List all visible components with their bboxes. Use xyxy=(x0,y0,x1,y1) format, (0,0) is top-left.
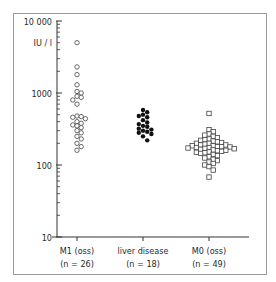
data-point-filled-circle xyxy=(145,130,149,134)
data-point-filled-circle xyxy=(141,134,145,138)
data-point-open-square xyxy=(215,135,219,139)
data-point-open-circle xyxy=(75,83,79,87)
data-point-open-square xyxy=(211,157,215,161)
scatter-plot: 10100100010 000IU / lM1 (oss)(n = 26)liv… xyxy=(0,0,276,282)
data-point-open-square xyxy=(203,142,207,146)
data-point-filled-circle xyxy=(141,124,145,128)
data-point-open-circle xyxy=(75,102,79,106)
data-point-open-square xyxy=(186,146,190,150)
data-point-open-square xyxy=(203,151,207,155)
data-point-open-square xyxy=(207,155,211,159)
data-point-open-circle xyxy=(75,94,79,98)
data-point-open-square xyxy=(207,150,211,154)
data-point-open-circle xyxy=(83,116,87,120)
data-point-open-square xyxy=(190,144,194,148)
y-tick-label: 100 xyxy=(37,161,52,171)
data-point-open-square xyxy=(207,137,211,141)
data-point-open-square xyxy=(211,139,215,143)
data-point-open-circle xyxy=(71,115,75,119)
y-axis-unit-label: IU / l xyxy=(34,38,52,48)
data-point-open-square xyxy=(207,141,211,145)
category-n-label: (n = 49) xyxy=(192,259,226,269)
data-point-filled-circle xyxy=(141,108,145,112)
data-point-open-square xyxy=(215,140,219,144)
category-n-label: (n = 26) xyxy=(60,259,94,269)
data-point-filled-circle xyxy=(137,131,141,135)
data-point-filled-circle xyxy=(137,126,141,130)
data-point-open-circle xyxy=(75,128,79,132)
data-point-filled-circle xyxy=(137,114,141,118)
data-point-open-circle xyxy=(79,125,83,129)
data-point-open-square xyxy=(232,147,236,151)
data-point-open-circle xyxy=(71,98,75,102)
data-point-open-circle xyxy=(79,95,83,99)
data-point-open-square xyxy=(219,144,223,148)
data-point-filled-circle xyxy=(145,138,149,142)
data-point-open-square xyxy=(207,175,211,179)
data-point-open-circle xyxy=(79,121,83,125)
data-point-filled-circle xyxy=(145,125,149,129)
data-point-open-square xyxy=(203,163,207,167)
data-point-open-square xyxy=(194,141,198,145)
y-tick-label: 10 xyxy=(42,233,52,243)
data-point-open-circle xyxy=(75,65,79,69)
data-point-open-square xyxy=(224,148,228,152)
chart: 10100100010 000IU / lM1 (oss)(n = 26)liv… xyxy=(0,0,276,282)
data-point-open-square xyxy=(203,137,207,141)
data-point-open-square xyxy=(194,150,198,154)
data-point-open-square xyxy=(207,160,211,164)
category-label: M1 (oss) xyxy=(60,246,94,256)
data-point-open-circle xyxy=(75,89,79,93)
data-point-open-circle xyxy=(75,72,79,76)
y-tick-label: 10 000 xyxy=(24,17,52,27)
data-point-open-circle xyxy=(79,114,83,118)
data-point-open-circle xyxy=(75,40,79,44)
data-point-filled-circle xyxy=(137,122,141,126)
data-point-open-square xyxy=(219,149,223,153)
data-points xyxy=(71,40,237,179)
data-point-open-square xyxy=(207,145,211,149)
data-point-filled-circle xyxy=(145,115,149,119)
data-point-open-circle xyxy=(75,119,79,123)
data-point-open-square xyxy=(203,156,207,160)
category-label: liver disease xyxy=(118,246,169,256)
data-point-open-square xyxy=(211,161,215,165)
data-point-open-square xyxy=(198,151,202,155)
data-point-open-circle xyxy=(79,131,83,135)
data-point-open-square xyxy=(211,148,215,152)
data-point-open-circle xyxy=(79,137,83,141)
category-n-label: (n = 18) xyxy=(126,259,160,269)
data-point-open-square xyxy=(211,144,215,148)
data-point-open-square xyxy=(215,148,219,152)
data-point-open-square xyxy=(203,146,207,150)
data-point-open-circle xyxy=(79,144,83,148)
data-point-open-square xyxy=(198,143,202,147)
data-point-open-square xyxy=(215,158,219,162)
data-point-open-square xyxy=(194,145,198,149)
data-point-open-square xyxy=(207,164,211,168)
data-point-open-circle xyxy=(75,148,79,152)
data-point-filled-circle xyxy=(149,132,153,136)
data-point-filled-circle xyxy=(141,112,145,116)
data-point-open-circle xyxy=(75,114,79,118)
data-point-open-square xyxy=(224,143,228,147)
data-point-open-circle xyxy=(75,124,79,128)
data-point-open-square xyxy=(207,111,211,115)
y-tick-label: 1000 xyxy=(31,89,52,99)
data-point-open-square xyxy=(198,138,202,142)
data-point-open-square xyxy=(203,133,207,137)
data-point-filled-circle xyxy=(145,110,149,114)
data-point-filled-circle xyxy=(141,118,145,122)
data-point-open-square xyxy=(207,127,211,131)
data-point-open-square xyxy=(211,134,215,138)
data-point-open-square xyxy=(211,168,215,172)
data-point-open-circle xyxy=(75,134,79,138)
data-point-open-circle xyxy=(75,141,79,145)
category-label: M0 (oss) xyxy=(192,246,226,256)
data-point-open-square xyxy=(211,130,215,134)
data-point-open-square xyxy=(228,145,232,149)
data-point-filled-circle xyxy=(149,127,153,131)
data-point-open-square xyxy=(207,132,211,136)
data-point-open-circle xyxy=(79,91,83,95)
data-point-filled-circle xyxy=(141,128,145,132)
